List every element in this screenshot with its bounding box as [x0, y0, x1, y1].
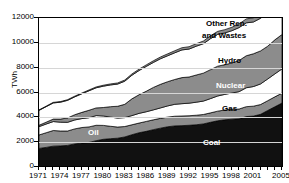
- x-tick-mark: [88, 167, 89, 170]
- x-tick-mark: [217, 167, 218, 170]
- x-tick-label: 1980: [93, 171, 111, 180]
- gridline: [39, 117, 282, 118]
- x-tick-label: 1971: [29, 171, 47, 180]
- y-tick-mark: [34, 116, 38, 117]
- series-label-hydro: Hydro: [218, 56, 241, 65]
- x-tick-mark: [59, 167, 60, 170]
- gridline: [39, 142, 282, 143]
- x-tick-mark: [67, 167, 68, 170]
- x-tick-mark: [131, 167, 132, 170]
- x-tick-mark: [102, 167, 103, 170]
- x-tick-label: 1974: [51, 171, 69, 180]
- x-tick-mark: [160, 167, 161, 170]
- x-tick-label: 2001: [244, 171, 262, 180]
- x-tick-label: 1983: [115, 171, 133, 180]
- x-tick-mark: [138, 167, 139, 170]
- x-tick-mark: [45, 167, 46, 170]
- x-tick-mark: [188, 167, 189, 170]
- x-tick-mark: [252, 167, 253, 170]
- x-tick-mark: [109, 167, 110, 170]
- x-tick-label: 2005: [272, 171, 289, 180]
- x-tick-label: 1992: [179, 171, 197, 180]
- y-tick-mark: [34, 17, 38, 18]
- x-tick-mark: [181, 167, 182, 170]
- x-tick-label: 1986: [136, 171, 154, 180]
- x-tick-mark: [81, 167, 82, 170]
- y-tick-label: 12000: [12, 13, 34, 21]
- y-tick-label: 2000: [16, 137, 34, 145]
- x-tick-mark: [145, 167, 146, 170]
- x-tick-mark: [124, 167, 125, 170]
- plot-area: [38, 17, 283, 167]
- y-tick-mark: [34, 42, 38, 43]
- x-tick-mark: [152, 167, 153, 170]
- x-tick-mark: [202, 167, 203, 170]
- x-tick-mark: [74, 167, 75, 170]
- x-tick-label: 1998: [222, 171, 240, 180]
- y-tick-label: 8000: [16, 63, 34, 71]
- y-tick-mark: [34, 166, 38, 167]
- x-tick-mark: [245, 167, 246, 170]
- series-label-gas: Gas: [222, 104, 237, 113]
- y-tick-label: 4000: [16, 112, 34, 120]
- x-tick-mark: [267, 167, 268, 170]
- x-tick-mark: [210, 167, 211, 170]
- x-tick-mark: [195, 167, 196, 170]
- x-tick-mark: [231, 167, 232, 170]
- y-tick-label: 6000: [16, 88, 34, 96]
- x-tick-mark: [52, 167, 53, 170]
- gridline: [39, 68, 282, 69]
- y-tick-mark: [34, 67, 38, 68]
- title-fragment: [104, 0, 164, 2]
- chart-figure: TWh 020004000600080001000012000 19711974…: [0, 0, 289, 183]
- x-tick-mark: [95, 167, 96, 170]
- y-axis-tick-labels: 020004000600080001000012000: [0, 0, 34, 183]
- x-tick-mark: [238, 167, 239, 170]
- x-tick-mark: [274, 167, 275, 170]
- series-label-oil: Oil: [88, 128, 99, 137]
- x-tick-mark: [38, 167, 39, 170]
- series-label-other-ren-line1: Other Ren.: [206, 19, 247, 28]
- x-tick-mark: [174, 167, 175, 170]
- y-tick-label: 10000: [12, 38, 34, 46]
- gridline: [39, 43, 282, 44]
- x-tick-label: 1977: [72, 171, 90, 180]
- x-tick-mark: [260, 167, 261, 170]
- series-label-nuclear: Nuclear: [216, 81, 245, 90]
- x-tick-mark: [281, 167, 282, 170]
- x-tick-mark: [117, 167, 118, 170]
- x-tick-label: 1989: [158, 171, 176, 180]
- x-tick-label: 1995: [201, 171, 219, 180]
- x-tick-mark: [224, 167, 225, 170]
- y-tick-mark: [34, 141, 38, 142]
- series-label-coal: Coal: [203, 138, 220, 147]
- plot-inner: [39, 18, 282, 167]
- series-label-other-ren-line2: and Wastes: [202, 31, 246, 40]
- x-tick-mark: [167, 167, 168, 170]
- gridline: [39, 93, 282, 94]
- y-tick-mark: [34, 92, 38, 93]
